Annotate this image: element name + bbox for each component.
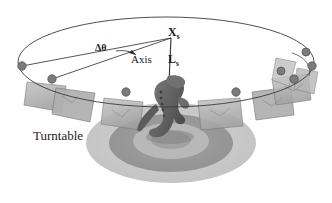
label-ls-base: L — [168, 52, 176, 66]
label-axis-length-ls: Ls — [168, 53, 179, 68]
camera-station-node — [122, 88, 130, 96]
turntable-diagram-figure: Turntable Axis Xs Ls Δθ — [0, 0, 332, 203]
label-xs-subscript: s — [177, 32, 180, 41]
camera-station-node — [302, 48, 310, 56]
label-xs-base: X — [168, 25, 177, 39]
ray-to-station-2 — [52, 38, 171, 79]
label-delta-theta: Δθ — [95, 43, 107, 53]
camera-card — [101, 98, 143, 130]
label-ls-subscript: s — [176, 59, 179, 68]
diagram-canvas — [0, 0, 332, 203]
camera-station-node — [277, 67, 285, 75]
camera-card — [198, 98, 243, 130]
camera-station-node — [48, 75, 56, 83]
camera-station-node — [308, 62, 316, 70]
camera-station-node — [290, 75, 298, 83]
camera-station-node — [232, 88, 240, 96]
label-axis: Axis — [131, 54, 152, 65]
label-axis-apex-xs: Xs — [168, 26, 180, 41]
camera-station-node — [18, 62, 26, 70]
label-turntable: Turntable — [33, 129, 83, 142]
